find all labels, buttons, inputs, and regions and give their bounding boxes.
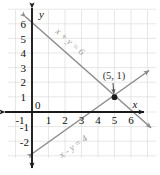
solution-point-label: (5, 1) (103, 70, 126, 82)
y-tick-label: -1 (20, 121, 29, 133)
solution-point-dot (112, 94, 118, 100)
x-tick-label: 4 (95, 114, 101, 126)
x-tick-label: 1 (46, 114, 52, 126)
y-tick-label: 4 (21, 47, 27, 59)
y-tick-label: 2 (21, 76, 27, 88)
y-tick-label: -2 (20, 136, 29, 148)
graph-canvas: x y 0 -1 1 2 3 4 5 6 6 5 4 3 2 1 -1 -2 (… (0, 0, 160, 175)
equation-label-line-two: x - y = 4 (56, 133, 89, 161)
x-tick-label: 5 (112, 114, 118, 126)
x-axis-label: x (132, 98, 138, 110)
x-tick-label: 6 (128, 114, 134, 126)
solution-pointer-arrow (113, 83, 114, 94)
y-tick-label: 5 (21, 33, 27, 45)
y-tick-label: 1 (21, 91, 27, 103)
coordinate-graph-figure: x y 0 -1 1 2 3 4 5 6 6 5 4 3 2 1 -1 -2 (… (0, 0, 160, 175)
y-axis-label: y (38, 8, 44, 20)
y-tick-label: 3 (21, 62, 27, 74)
x-tick-label: 3 (79, 114, 85, 126)
x-tick-label: 2 (62, 114, 68, 126)
y-tick-label: 6 (21, 18, 27, 30)
origin-label: 0 (35, 99, 41, 111)
